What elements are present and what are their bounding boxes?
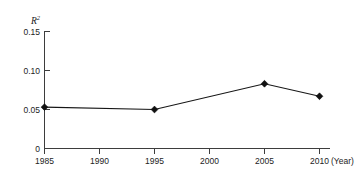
series-line-r2 [45, 84, 320, 110]
x-axis-unit-label: (Year) [331, 156, 354, 166]
data-point-marker [151, 106, 158, 113]
x-tick-label-1: 1990 [90, 156, 109, 166]
line-chart: R2 0.15 0.10 0.05 0 1985 1990 1995 2000 … [0, 0, 356, 178]
y-tick-label-1: 0.10 [23, 66, 40, 76]
x-tick-label-2: 1995 [145, 156, 164, 166]
y-tick-label-2: 0.05 [23, 105, 40, 115]
y-tick-label-3: 0 [35, 144, 40, 154]
x-tick-label-4: 2005 [255, 156, 274, 166]
chart-container: R2 0.15 0.10 0.05 0 1985 1990 1995 2000 … [0, 0, 356, 178]
y-axis-title-superscript: 2 [37, 14, 41, 21]
data-point-marker [316, 93, 323, 100]
x-tick-label-3: 2000 [200, 156, 219, 166]
x-tick-label-0: 1985 [35, 156, 54, 166]
x-tick-label-5: 2010 [310, 156, 329, 166]
y-axis-title: R2 [30, 14, 41, 26]
data-point-marker [261, 80, 268, 87]
y-tick-label-0: 0.15 [23, 27, 40, 37]
